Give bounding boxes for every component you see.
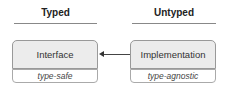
arrow-head-icon: [99, 51, 104, 57]
implementation-box: Implementation: [130, 40, 216, 69]
interface-label: Interface: [37, 49, 74, 60]
arrow-line: [102, 54, 130, 55]
untyped-underline: [132, 23, 216, 24]
typed-underline: [14, 23, 97, 24]
implementation-label: Implementation: [141, 49, 206, 60]
untyped-header: Untyped: [132, 7, 216, 18]
type-agnostic-label: type-agnostic: [130, 69, 216, 83]
typed-header: Typed: [14, 7, 97, 18]
interface-box: Interface: [12, 40, 98, 69]
type-safe-label: type-safe: [12, 69, 98, 83]
